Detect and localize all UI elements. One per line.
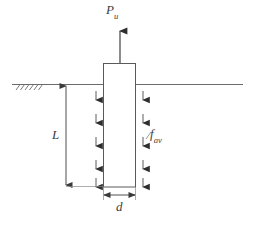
embedment-length-symbol: L [52, 127, 59, 142]
ground-hatching [16, 85, 43, 91]
embedment-length-label: L [52, 128, 59, 141]
pile-diameter-label: d [116, 200, 123, 213]
pile-shaft [104, 64, 136, 188]
uplift-pile-diagram: Pu L fav d [0, 0, 254, 226]
uplift-load-subscript: u [114, 11, 118, 21]
uplift-load-label: Pu [106, 3, 118, 19]
diagram-canvas [0, 0, 254, 226]
pile-diameter-symbol: d [116, 199, 123, 214]
uplift-load-symbol: P [106, 2, 114, 17]
skin-friction-subscript: av [154, 135, 162, 145]
skin-friction-label: fav [150, 127, 162, 143]
